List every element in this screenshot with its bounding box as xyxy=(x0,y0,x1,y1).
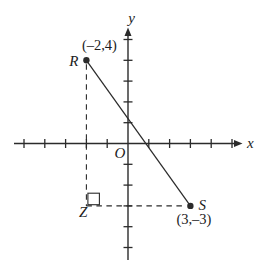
plot-svg: yxOR(–2,4)S(3,–3)Z xyxy=(0,0,268,265)
x-axis-label: x xyxy=(246,135,254,151)
origin-label: O xyxy=(115,145,126,161)
point-Z-label: Z xyxy=(79,204,88,220)
right-angle-marker xyxy=(88,193,100,205)
x-axis-arrowhead xyxy=(234,140,243,147)
point-R-coordinates: (–2,4) xyxy=(82,37,117,54)
point-S-coordinates: (3,–3) xyxy=(176,211,211,228)
point-S-dot xyxy=(187,203,193,209)
coordinate-plane-figure: yxOR(–2,4)S(3,–3)Z xyxy=(0,0,268,265)
y-axis-arrowhead xyxy=(125,28,132,37)
y-axis-label: y xyxy=(126,10,135,26)
segment-R-S xyxy=(86,60,190,206)
point-R-dot xyxy=(83,57,89,63)
point-R-label: R xyxy=(68,53,78,69)
